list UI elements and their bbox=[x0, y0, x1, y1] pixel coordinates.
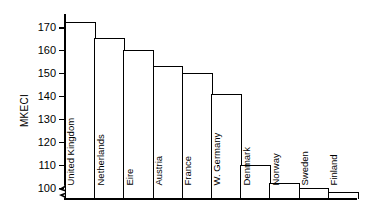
bar: France bbox=[182, 73, 213, 199]
bar-label: Norway bbox=[270, 153, 280, 185]
y-axis-tick-label: 170 bbox=[38, 22, 56, 33]
bar: Austria bbox=[153, 66, 184, 199]
bar-label: Netherlands bbox=[95, 134, 105, 185]
bar-label: France bbox=[183, 155, 193, 185]
y-axis-tick-label: 100 bbox=[38, 182, 56, 193]
bar-label: Denmark bbox=[241, 146, 251, 185]
bar: Eire bbox=[123, 50, 154, 199]
y-axis-tick-label: 130 bbox=[38, 114, 56, 125]
y-axis-tick-label: 120 bbox=[38, 136, 56, 147]
y-axis-tick-label: 140 bbox=[38, 91, 56, 102]
bar: Netherlands bbox=[94, 38, 125, 199]
bar-label: Sweden bbox=[299, 151, 309, 185]
bar-label: Finland bbox=[329, 154, 339, 185]
y-axis-tick-label: 160 bbox=[38, 45, 56, 56]
bar: United Kingdom bbox=[65, 22, 96, 199]
y-axis-ticks: 100110120130140150160170 bbox=[0, 0, 64, 221]
bar: W. Germany bbox=[211, 94, 242, 200]
y-axis-tick-label: 110 bbox=[38, 159, 56, 170]
bar-label: Austria bbox=[153, 155, 163, 185]
y-axis-tick-label: 150 bbox=[38, 68, 56, 79]
bar-label: Eire bbox=[124, 168, 134, 185]
bar-series: United KingdomNetherlandsEireAustriaFran… bbox=[65, 0, 357, 199]
bar-label: W. Germany bbox=[212, 132, 222, 185]
bar: Denmark bbox=[240, 165, 271, 199]
bar-label: United Kingdom bbox=[66, 117, 76, 185]
bar-chart: MKECI 100110120130140150160170 United Ki… bbox=[0, 0, 365, 221]
x-axis-line bbox=[64, 198, 357, 200]
